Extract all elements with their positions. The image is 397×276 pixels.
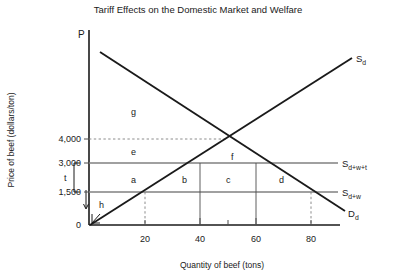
x-tick-marks bbox=[145, 218, 311, 225]
svg-text:Sd: Sd bbox=[356, 53, 366, 66]
region-label-d: d bbox=[279, 175, 284, 185]
curve-label-sd-w-t: Sd+w+t bbox=[342, 158, 367, 171]
region-label-g: g bbox=[131, 107, 136, 117]
region-label-b: b bbox=[182, 175, 187, 185]
x-axis-label: Quantity of beef (tons) bbox=[180, 260, 264, 270]
curve-label-sd: Sd bbox=[356, 53, 366, 66]
region-label-f: f bbox=[231, 152, 234, 162]
curve-label-sd-w-sub: d+w bbox=[348, 193, 361, 200]
region-label-h: h bbox=[99, 200, 104, 210]
y-axis-label: Price of beef (dollars/ton) bbox=[6, 92, 16, 187]
curve-label-sd-w: Sd+w bbox=[342, 187, 361, 200]
h-arrow bbox=[84, 190, 89, 209]
price-axis-symbol: P bbox=[78, 29, 85, 40]
y-tick-label-4000: 4,000 bbox=[58, 134, 81, 144]
region-label-c: c bbox=[226, 175, 231, 185]
svg-text:Dd: Dd bbox=[348, 208, 359, 221]
y-tick-label-1500: 1,500 bbox=[58, 187, 81, 197]
curve-label-sd-sub: d bbox=[362, 59, 366, 66]
curve-label-sd-w-t-sub: d+w+t bbox=[348, 164, 367, 171]
svg-text:Sd+w+t: Sd+w+t bbox=[342, 158, 367, 171]
chart-title: Tariff Effects on the Domestic Market an… bbox=[94, 4, 303, 15]
tariff-welfare-chart: Tariff Effects on the Domestic Market an… bbox=[0, 0, 397, 276]
demand-curve-dd bbox=[100, 52, 345, 211]
x-tick-label-40: 40 bbox=[195, 234, 205, 244]
x-tick-label-20: 20 bbox=[140, 234, 150, 244]
chart-svg: Tariff Effects on the Domestic Market an… bbox=[0, 0, 397, 276]
x-tick-label-60: 60 bbox=[251, 234, 261, 244]
supply-curve-sd bbox=[90, 58, 352, 225]
x-tick-label-80: 80 bbox=[306, 234, 316, 244]
svg-text:Sd+w: Sd+w bbox=[342, 187, 361, 200]
y-tick-label-3000: 3,000 bbox=[58, 158, 81, 168]
region-label-e: e bbox=[131, 147, 136, 157]
curve-label-dd: Dd bbox=[348, 208, 359, 221]
tariff-bracket-label: t bbox=[64, 173, 67, 183]
y-tick-label-0: 0 bbox=[76, 220, 81, 230]
region-label-a: a bbox=[131, 175, 136, 185]
curve-label-dd-sub: d bbox=[355, 214, 359, 221]
